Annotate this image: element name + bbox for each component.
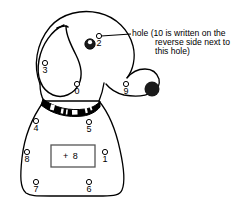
hole-label-4: 4	[30, 124, 42, 133]
dog-eye-highlight	[88, 40, 92, 44]
puzzle-figure-canvas: 2 3 0 9 4 5 8 1 7 6 + 8 hole (10 is writ…	[0, 0, 252, 203]
hole-label-7: 7	[30, 185, 42, 194]
annotation-line-3: this hole)	[155, 47, 190, 57]
hole-label-6: 6	[83, 185, 95, 194]
dog-neck-right	[99, 83, 104, 101]
hole-label-5: 5	[83, 125, 95, 134]
hole-label-9: 9	[120, 87, 132, 96]
hole-label-2: 2	[93, 39, 105, 48]
sum-box-label: + 8	[63, 152, 79, 161]
hole-label-1: 1	[99, 155, 111, 164]
hole-label-0: 0	[71, 87, 83, 96]
hole-label-3: 3	[39, 66, 51, 75]
hole-label-8: 8	[21, 155, 33, 164]
dog-nose	[145, 82, 160, 97]
